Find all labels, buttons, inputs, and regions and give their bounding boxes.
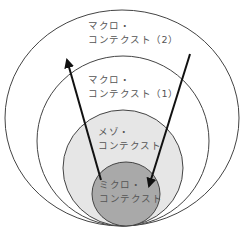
micro-context-label: ミクロ・ コンテクスト: [99, 178, 162, 206]
macro-context-1-label-line1: マクロ・: [88, 73, 179, 87]
micro-context-label-line2: コンテクスト: [99, 192, 162, 206]
meso-context-label: メゾ・ コンテクスト: [98, 125, 161, 153]
macro-context-2-label-line2: コンテクスト（2）: [88, 33, 179, 47]
macro-context-1-label-line2: コンテクスト（1）: [88, 87, 179, 101]
macro-context-1-label: マクロ・ コンテクスト（1）: [88, 73, 179, 101]
macro-context-2-label: マクロ・ コンテクスト（2）: [88, 19, 179, 47]
meso-context-label-line2: コンテクスト: [98, 139, 161, 153]
micro-context-label-line1: ミクロ・: [99, 178, 162, 192]
macro-context-2-label-line1: マクロ・: [88, 19, 179, 33]
meso-context-label-line1: メゾ・: [98, 125, 161, 139]
